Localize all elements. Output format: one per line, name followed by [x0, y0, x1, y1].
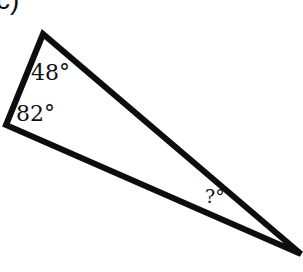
- angle-left-label: 82°: [16, 103, 55, 125]
- angle-right-label: ?°: [205, 187, 225, 206]
- angle-top-label: 48°: [31, 62, 70, 84]
- triangle-diagram: [0, 0, 303, 272]
